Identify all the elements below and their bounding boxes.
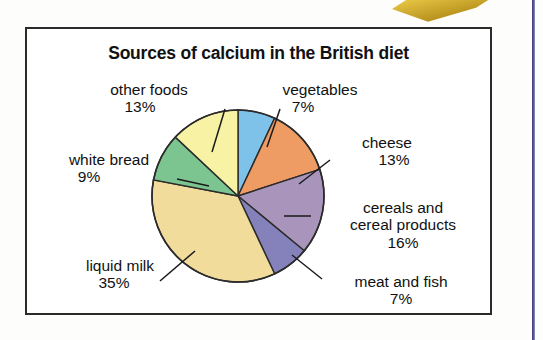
- pie-label-vegetables-name: vegetables: [255, 81, 385, 98]
- pie-label-white-bread-name: white bread: [33, 151, 185, 168]
- chart-title: Sources of calcium in the British diet: [27, 43, 490, 64]
- pie-label-meat-and-fish: meat and fish 7%: [313, 273, 489, 308]
- pie-label-vegetables-value: 7%: [255, 98, 385, 115]
- pie-label-white-bread: white bread 9%: [33, 151, 185, 186]
- pie-label-other-foods: other foods 13%: [79, 81, 219, 116]
- pie-label-vegetables: vegetables 7%: [255, 81, 385, 116]
- pie-label-white-bread-value: 9%: [33, 168, 185, 185]
- pie-label-cereals-name-line2: cereal products: [315, 216, 491, 233]
- pie-label-cheese-name: cheese: [327, 134, 447, 151]
- pie-label-other-foods-value: 13%: [79, 98, 219, 115]
- pie-label-cereals-name-line1: cereals and: [315, 199, 491, 216]
- pie-label-liquid-milk-name: liquid milk: [45, 257, 195, 274]
- pie-label-meat-and-fish-name: meat and fish: [313, 273, 489, 290]
- pie-label-liquid-milk: liquid milk 35%: [45, 257, 195, 292]
- pie-label-cheese-value: 13%: [327, 151, 447, 168]
- figure-frame: Sources of calcium in the British diet: [25, 27, 492, 315]
- pie-label-liquid-milk-value: 35%: [45, 274, 195, 291]
- pie-label-cheese: cheese 13%: [327, 134, 447, 169]
- pie-label-cereals-and-cereal-products: cereals and cereal products 16%: [315, 199, 491, 251]
- pie-label-meat-and-fish-value: 7%: [313, 290, 489, 307]
- pie-label-cereals-value: 16%: [315, 234, 491, 251]
- page-edge-rule: [532, 0, 535, 340]
- pie-label-other-foods-name: other foods: [79, 81, 219, 98]
